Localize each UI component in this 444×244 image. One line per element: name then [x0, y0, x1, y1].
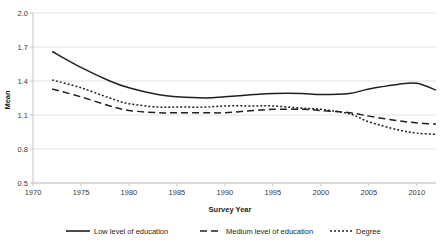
- x-tick-label: 2005: [360, 188, 377, 197]
- gridlines: [33, 13, 436, 183]
- series-line-0: [52, 52, 436, 98]
- x-tick-label: 1980: [121, 188, 138, 197]
- series-line-2: [52, 80, 436, 134]
- x-tick-label: 1985: [169, 188, 186, 197]
- legend: Low level of educationMedium level of ed…: [66, 227, 381, 236]
- x-tick-label: 1970: [25, 188, 42, 197]
- y-axis-title: Mean: [3, 90, 12, 110]
- x-tick-label: 1990: [217, 188, 234, 197]
- x-tick-labels: 197019751980198519901995200020052010: [25, 183, 425, 197]
- legend-label-0: Low level of education: [94, 227, 168, 236]
- y-tick-label: 1.1: [18, 111, 28, 120]
- line-chart: 0.50.81.11.41.72.0 197019751980198519901…: [0, 0, 444, 244]
- y-tick-label: 0.8: [18, 145, 28, 154]
- data-series: [52, 52, 436, 135]
- y-tick-label: 0.5: [18, 179, 28, 188]
- legend-label-2: Degree: [356, 227, 381, 236]
- x-tick-label: 2000: [313, 188, 330, 197]
- chart-container: 0.50.81.11.41.72.0 197019751980198519901…: [0, 0, 444, 244]
- x-tick-label: 2010: [408, 188, 425, 197]
- legend-label-1: Medium level of education: [226, 227, 313, 236]
- y-tick-label: 2.0: [18, 9, 28, 18]
- x-tick-label: 1995: [265, 188, 282, 197]
- x-tick-label: 1975: [73, 188, 90, 197]
- y-tick-label: 1.4: [18, 77, 28, 86]
- y-tick-label: 1.7: [18, 43, 28, 52]
- x-axis-title: Survey Year: [209, 205, 252, 214]
- y-tick-labels: 0.50.81.11.41.72.0: [18, 9, 33, 188]
- series-line-1: [52, 89, 436, 124]
